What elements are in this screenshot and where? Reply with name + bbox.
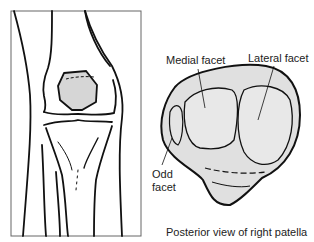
figure-caption: Posterior view of right patella: [166, 226, 307, 238]
knee-anterior-illustration: [14, 11, 123, 236]
medial-facet-label: Medial facet: [166, 54, 225, 66]
lateral-facet-label: Lateral facet: [248, 52, 309, 64]
medial-facet-region: [184, 88, 237, 149]
odd-facet-label-line2: facet: [152, 181, 176, 193]
odd-facet-label-line1: Odd: [152, 168, 173, 180]
lateral-facet-region: [238, 86, 292, 164]
knee-diagram: [0, 0, 314, 242]
